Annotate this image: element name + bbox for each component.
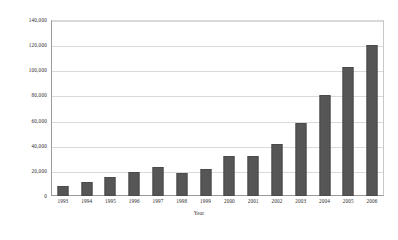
bar: [176, 173, 187, 196]
bar-slot: [51, 20, 75, 196]
x-tick-label: 2002: [265, 198, 289, 205]
y-tick-label: 60,000: [1, 118, 47, 124]
x-tick-label: 1994: [75, 198, 99, 205]
x-tick-label: 2006: [360, 198, 384, 205]
bar: [271, 144, 282, 196]
y-tick-label: 40,000: [1, 143, 47, 149]
x-axis-title: Year: [0, 210, 398, 216]
bar-slot: [313, 20, 337, 196]
bar-slot: [336, 20, 360, 196]
bar-slot: [289, 20, 313, 196]
bar-slot: [75, 20, 99, 196]
bar-slot: [241, 20, 265, 196]
bar-slot: [146, 20, 170, 196]
y-tick-label: 0: [1, 193, 47, 199]
bar: [81, 182, 92, 196]
x-tick-label: 1993: [51, 198, 75, 205]
bar: [105, 177, 116, 196]
bar-slot: [218, 20, 242, 196]
bar: [343, 67, 354, 196]
bar: [57, 186, 68, 196]
bar-slot: [194, 20, 218, 196]
x-tick-label: 1996: [122, 198, 146, 205]
bar: [248, 156, 259, 196]
x-axis-tick-labels: 1993199419951996199719981999200020012002…: [51, 198, 384, 210]
x-tick-label: 2001: [241, 198, 265, 205]
bars-group: [51, 20, 384, 196]
y-tick-label: 140,000: [1, 17, 47, 23]
bar: [153, 167, 164, 196]
x-tick-label: 2004: [313, 198, 337, 205]
y-tick-label: 120,000: [1, 42, 47, 48]
x-tick-label: 1998: [170, 198, 194, 205]
bar: [295, 123, 306, 196]
x-tick-label: 2003: [289, 198, 313, 205]
x-tick-label: 1997: [146, 198, 170, 205]
bar: [367, 45, 378, 196]
x-tick-label: 2005: [336, 198, 360, 205]
y-tick-label: 80,000: [1, 92, 47, 98]
x-tick-label: 1995: [99, 198, 123, 205]
bar-chart: Million US Dollars 020,00040,00060,00080…: [0, 0, 398, 240]
bar-slot: [170, 20, 194, 196]
bar-slot: [360, 20, 384, 196]
bar: [224, 156, 235, 196]
y-tick-label: 20,000: [1, 168, 47, 174]
x-tick-label: 1999: [194, 198, 218, 205]
bar-slot: [265, 20, 289, 196]
y-tick-label: 100,000: [1, 67, 47, 73]
bar-slot: [122, 20, 146, 196]
bar: [200, 169, 211, 196]
x-tick-label: 2000: [218, 198, 242, 205]
bar: [129, 172, 140, 197]
bar-slot: [99, 20, 123, 196]
bar: [319, 95, 330, 196]
